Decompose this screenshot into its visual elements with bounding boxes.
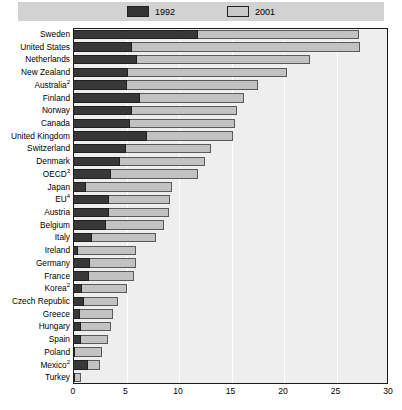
legend-label-1992: 1992 <box>155 7 175 17</box>
x-axis-tick-label: 0 <box>71 385 76 397</box>
bar-row <box>73 130 388 143</box>
bar-1992 <box>73 42 132 51</box>
bar-2001 <box>73 347 102 356</box>
x-axis-tick-label: 20 <box>278 385 288 397</box>
category-label: Germany <box>0 257 70 270</box>
bar-row <box>73 320 388 333</box>
bar-row <box>73 244 388 257</box>
bar-row <box>73 257 388 270</box>
bar-row <box>73 371 388 384</box>
bar-row <box>73 168 388 181</box>
bar-1992 <box>73 246 78 255</box>
bar-row <box>73 359 388 372</box>
bar-1992 <box>73 131 147 140</box>
bar-row <box>73 193 388 206</box>
category-label: Hungary <box>0 320 70 333</box>
bar-1992 <box>73 68 128 77</box>
legend-swatch-2001-icon <box>227 6 249 17</box>
bar-row <box>73 28 388 41</box>
category-label: Austria <box>0 206 70 219</box>
bar-1992 <box>73 119 130 128</box>
gridline <box>389 29 390 383</box>
legend-swatch-1992-icon <box>127 6 149 17</box>
bar-1992 <box>73 106 132 115</box>
bar-row <box>73 308 388 321</box>
legend-label-2001: 2001 <box>255 7 275 17</box>
category-label: United States <box>0 41 70 54</box>
category-label: Canada <box>0 117 70 130</box>
category-label: Italy <box>0 231 70 244</box>
category-label: Japan <box>0 181 70 194</box>
bar-row <box>73 41 388 54</box>
bar-row <box>73 117 388 130</box>
bar-1992 <box>73 93 140 102</box>
bar-row <box>73 270 388 283</box>
bar-1992 <box>73 360 88 369</box>
x-axis-tick-label: 10 <box>173 385 183 397</box>
bar-1992 <box>73 258 90 267</box>
category-label: Spain <box>0 333 70 346</box>
bar-row <box>73 219 388 232</box>
category-label: Netherlands <box>0 53 70 66</box>
bar-row <box>73 282 388 295</box>
category-label: EU4 <box>0 193 70 206</box>
bar-1992 <box>73 284 82 293</box>
bar-1992 <box>73 195 109 204</box>
bar-1992 <box>73 220 106 229</box>
category-label: Czech Republic <box>0 295 70 308</box>
category-label: Denmark <box>0 155 70 168</box>
bar-2001 <box>73 182 172 191</box>
bar-row <box>73 295 388 308</box>
bar-1992 <box>73 30 198 39</box>
legend-item-2001: 2001 <box>227 6 275 17</box>
bar-2001 <box>73 246 136 255</box>
category-label: Turkey <box>0 371 70 384</box>
bar-row <box>73 155 388 168</box>
x-axis-tick-label: 25 <box>331 385 341 397</box>
x-axis-tick-label: 15 <box>226 385 236 397</box>
bar-row <box>73 53 388 66</box>
bar-1992 <box>73 144 126 153</box>
x-axis-tick-label: 30 <box>383 385 393 397</box>
bar-1992 <box>73 208 109 217</box>
legend-item-1992: 1992 <box>127 6 175 17</box>
category-label: Korea2 <box>0 282 70 295</box>
chart-legend: 1992 2001 <box>18 2 384 21</box>
category-axis: SwedenUnited StatesNetherlandsNew Zealan… <box>0 28 70 384</box>
category-label: Norway <box>0 104 70 117</box>
bar-1992 <box>73 309 80 318</box>
bar-row <box>73 346 388 359</box>
bar-1992 <box>73 55 137 64</box>
category-label: France <box>0 270 70 283</box>
x-axis-tick-label: 5 <box>123 385 128 397</box>
bar-1992 <box>73 271 89 280</box>
category-label: Greece <box>0 308 70 321</box>
category-label: OECD3 <box>0 168 70 181</box>
bar-row <box>73 104 388 117</box>
bar-rows <box>73 28 388 384</box>
bar-row <box>73 206 388 219</box>
category-label: Sweden <box>0 28 70 41</box>
bar-1992 <box>73 169 111 178</box>
bar-chart: 1992 2001 SwedenUnited StatesNetherlands… <box>0 0 402 410</box>
bar-1992 <box>73 157 120 166</box>
category-label: Switzerland <box>0 142 70 155</box>
category-label: Belgium <box>0 219 70 232</box>
bar-row <box>73 142 388 155</box>
bar-row <box>73 79 388 92</box>
bar-row <box>73 231 388 244</box>
bar-1992 <box>73 182 86 191</box>
bar-1992 <box>73 80 127 89</box>
bar-1992 <box>73 297 84 306</box>
bar-1992 <box>73 233 92 242</box>
bar-row <box>73 92 388 105</box>
bar-1992 <box>73 335 81 344</box>
category-label: Australia2 <box>0 79 70 92</box>
category-label: Poland <box>0 346 70 359</box>
category-label: Ireland <box>0 244 70 257</box>
bar-1992 <box>73 322 81 331</box>
category-label: Finland <box>0 92 70 105</box>
bar-1992 <box>73 373 75 382</box>
bar-1992 <box>73 347 75 356</box>
bar-row <box>73 66 388 79</box>
